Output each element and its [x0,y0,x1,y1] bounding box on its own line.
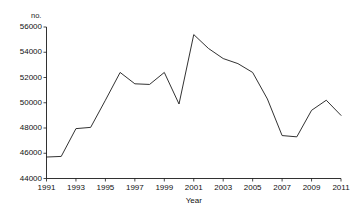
data-series-line [47,35,342,157]
line-chart: no. 44000460004800050000520005400056000 … [0,0,353,213]
plot-area [0,0,353,213]
axes [44,27,342,182]
